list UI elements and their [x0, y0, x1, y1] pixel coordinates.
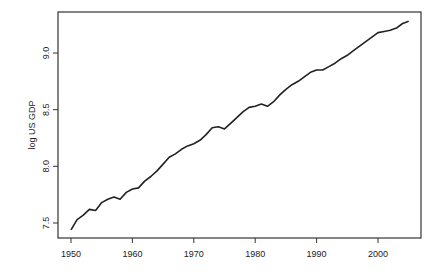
x-tick-label: 1960 [122, 249, 142, 259]
x-tick-label: 1980 [245, 249, 265, 259]
x-tick-label: 1970 [184, 249, 204, 259]
y-tick-label: 8.0 [41, 160, 51, 173]
y-axis-label: log US GDP [27, 100, 37, 149]
line-chart: 195019601970198019902000 7.58.08.59.0 lo… [0, 0, 446, 276]
plot-frame [58, 12, 421, 238]
x-tick-label: 2000 [368, 249, 388, 259]
gdp-series-line [71, 21, 409, 230]
y-tick-label: 7.5 [41, 217, 51, 230]
x-tick-label: 1990 [307, 249, 327, 259]
y-tick-label: 8.5 [41, 103, 51, 116]
y-tick-label: 9.0 [41, 47, 51, 60]
y-axis: 7.58.08.59.0 [41, 47, 58, 230]
x-tick-label: 1950 [61, 249, 81, 259]
x-axis: 195019601970198019902000 [61, 238, 388, 259]
